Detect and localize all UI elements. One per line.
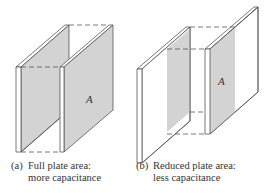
figure-a-area-label: A — [85, 93, 93, 105]
figure-b-caption-line1: Reduced plate area: — [153, 160, 236, 171]
figure-a-caption: (a)Full plate area: more capacitance — [11, 160, 101, 184]
figure-b-area-label: A — [217, 75, 225, 87]
figure-b-right-plate — [205, 7, 258, 134]
figure-a-caption-label: (a) — [11, 160, 28, 172]
figure-a-caption-line1: Full plate area: — [28, 160, 91, 171]
figure-b-left-plate — [137, 27, 190, 163]
figure-a-caption-line2: more capacitance — [11, 172, 101, 184]
figure-b: A — [137, 7, 258, 163]
figure-b-caption-line2: less capacitance — [136, 172, 236, 184]
figure-a: A — [16, 25, 113, 152]
figure-b-caption: (b)Reduced plate area: less capacitance — [136, 160, 236, 184]
figure-b-caption-label: (b) — [136, 160, 153, 172]
